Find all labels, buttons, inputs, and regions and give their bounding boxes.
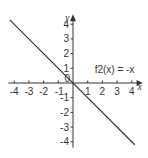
y-tick-label: 2 — [63, 48, 69, 59]
x-tick-label: -3 — [24, 86, 33, 97]
function-plot: xy -4-3-2-101234-4-3-2-11234 f2(x) = -x — [0, 0, 148, 158]
y-tick-label: -1 — [60, 92, 69, 103]
y-tick-label: 1 — [63, 63, 69, 74]
y-axis-arrow-icon — [70, 14, 76, 21]
x-tick-label: -4 — [10, 86, 19, 97]
x-tick-label: 2 — [100, 86, 106, 97]
axes: xy — [8, 12, 142, 147]
y-tick-label: -4 — [60, 136, 69, 147]
x-tick-label: 3 — [114, 86, 120, 97]
function-label: f2(x) = -x — [95, 64, 135, 75]
annotation-group: f2(x) = -x — [95, 64, 135, 75]
y-tick-label: 3 — [63, 33, 69, 44]
y-tick-label: -3 — [60, 122, 69, 133]
x-axis-label: x — [137, 81, 143, 92]
x-tick-label: -2 — [39, 86, 48, 97]
x-tick-label: 4 — [129, 86, 135, 97]
y-tick-label: 4 — [63, 19, 69, 30]
y-tick-label: -2 — [60, 107, 69, 118]
